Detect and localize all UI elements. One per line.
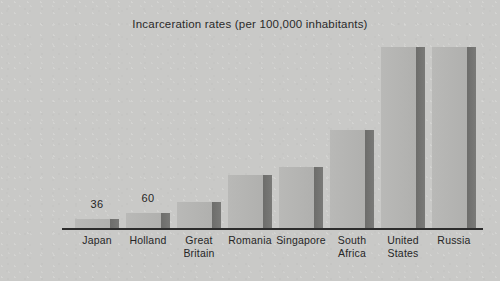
category-label-south-africa-line1: South	[338, 234, 366, 246]
bar-singapore[interactable]	[279, 167, 323, 228]
bar-romania[interactable]	[228, 175, 272, 228]
bar-face-singapore	[279, 167, 314, 228]
x-axis-line	[62, 228, 483, 230]
bar-holland[interactable]	[126, 213, 170, 228]
bar-face-south-africa	[330, 130, 365, 228]
category-label-russia-line1: Russia	[437, 234, 470, 246]
plot-area: 36 60 100 200	[62, 34, 483, 228]
bar-japan[interactable]	[75, 219, 119, 228]
category-label-united-states-line1: United	[387, 234, 419, 246]
bar-face-japan	[75, 219, 110, 228]
category-label-russia: Russia	[416, 234, 492, 247]
bar-russia[interactable]	[432, 47, 476, 228]
bar-face-holland	[126, 213, 161, 228]
bar-edge-romania	[263, 175, 272, 228]
category-label-great-britain-line1: Great	[185, 234, 212, 246]
category-label-japan-line1: Japan	[82, 234, 112, 246]
category-label-great-britain-line2: Britain	[161, 247, 237, 260]
bar-edge-japan	[110, 219, 119, 228]
bar-great-britain[interactable]	[177, 202, 221, 228]
bar-edge-russia	[467, 47, 476, 228]
bar-south-africa[interactable]	[330, 130, 374, 228]
bar-face-russia	[432, 47, 467, 228]
bar-edge-united-states	[416, 47, 425, 228]
bar-face-romania	[228, 175, 263, 228]
bar-face-united-states	[381, 47, 416, 228]
bar-face-great-britain	[177, 202, 212, 228]
bar-edge-singapore	[314, 167, 323, 228]
bar-united-states[interactable]	[381, 47, 425, 228]
category-label-united-states-line2: States	[365, 247, 441, 260]
chart-title: Incarceration rates (per 100,000 inhabit…	[0, 18, 500, 30]
bar-edge-holland	[161, 213, 170, 228]
chart-figure: Incarceration rates (per 100,000 inhabit…	[0, 0, 500, 293]
